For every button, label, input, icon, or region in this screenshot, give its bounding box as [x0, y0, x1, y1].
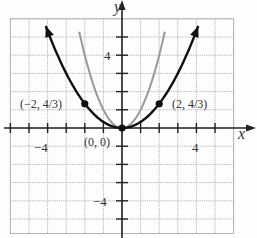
point-label-origin: (0, 0) — [84, 135, 110, 149]
y-tick-label-pos4: 4 — [104, 48, 111, 63]
axes — [4, 0, 256, 238]
curve-arrow-icon — [190, 26, 198, 38]
point-marker — [156, 100, 163, 107]
point-marker — [81, 100, 88, 107]
point-label-right: (2, 4/3) — [172, 97, 207, 111]
x-tick-label-neg4: −4 — [34, 140, 48, 155]
parabola-graph: x y −4 4 4 −4 (−2, 4/3) (0, 0) (2, 4/3) — [0, 0, 257, 238]
y-axis-label: y — [112, 0, 122, 16]
x-axis-arrow-icon — [246, 125, 256, 132]
y-tick-label-neg4: −4 — [93, 194, 107, 209]
point-marker — [118, 124, 125, 131]
curve-arrow-icon — [45, 26, 53, 38]
graph-canvas: x y −4 4 4 −4 (−2, 4/3) (0, 0) (2, 4/3) — [0, 0, 257, 238]
x-tick-label-pos4: 4 — [192, 140, 199, 155]
point-label-left: (−2, 4/3) — [20, 97, 62, 111]
x-axis-label: x — [237, 125, 245, 142]
